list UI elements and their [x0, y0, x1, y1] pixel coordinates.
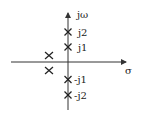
label-j1: j1 [77, 42, 87, 53]
pole-lhp-lower [45, 67, 53, 74]
imaginary-axis-label: jω [76, 9, 88, 20]
s-plane-diagram: jω σ j2 j1 -j1 -j2 [0, 0, 141, 115]
label-neg-j2: -j2 [74, 90, 87, 101]
label-neg-j1: -j1 [74, 74, 87, 85]
pole-lhp-upper [45, 52, 53, 59]
real-axis-label: σ [125, 65, 132, 76]
label-j2: j2 [77, 27, 87, 38]
